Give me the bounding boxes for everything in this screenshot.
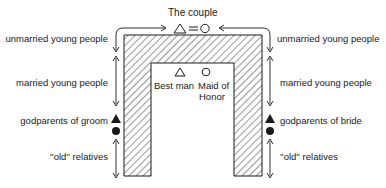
left-old-relatives-label: ''old'' relatives [50,151,108,162]
right-married-arrow [267,56,273,106]
bride-circle-icon [201,24,209,32]
left-unmarried-label: unmarried young people [6,33,108,44]
left-married-arrow [113,56,119,106]
right-married-label: married young people [280,77,372,88]
maid-of-honor-circle-icon [202,68,210,76]
best-man-label: Best man [154,80,194,91]
godfather-bride-triangle-icon [265,114,275,123]
groom-triangle-icon [174,24,186,33]
right-godparents-label: godparents of bride [280,115,362,126]
godmother-groom-circle-icon [112,127,120,135]
couple-title: The couple [168,7,217,18]
left-old-relatives-arrow [113,139,119,178]
maid-of-honor-label-line2: Honor [199,91,225,102]
maid-of-honor-label-line1: Maid of [198,80,229,91]
right-old-relatives-label: ''old'' relatives [280,151,338,162]
left-godparents-label: godparents of groom [20,115,108,126]
hatched-u-table [124,35,262,176]
left-married-label: married young people [16,77,108,88]
best-man-triangle-icon [175,68,185,76]
right-unmarried-label: unmarried young people [277,33,379,44]
godfather-groom-triangle-icon [111,114,121,123]
right-old-relatives-arrow [267,139,273,178]
godmother-bride-circle-icon [266,127,274,135]
